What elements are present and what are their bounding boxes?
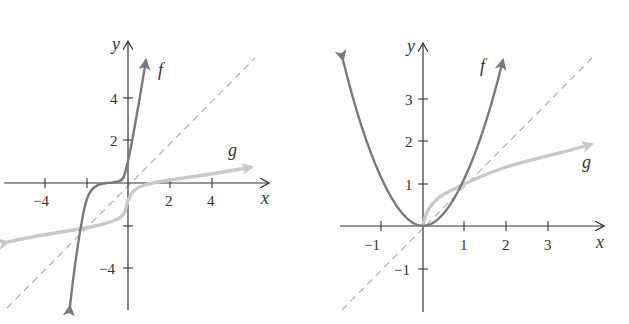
- right-xlabel-2: 2: [502, 237, 510, 253]
- left-graph: −4 2 4 4 2 −4 y x f g: [4, 34, 269, 310]
- figure: −4 2 4 4 2 −4 y x f g −1 1 2 3 3 2: [0, 0, 629, 324]
- right-xlabel-3: 3: [544, 237, 552, 253]
- right-graph: −1 1 2 3 3 2 1 −1 y x f g: [340, 36, 604, 312]
- left-ylabel-2: 2: [110, 133, 118, 149]
- right-ylabel-m1: −1: [394, 262, 410, 278]
- left-xlabel-2: 2: [165, 193, 173, 209]
- right-g-curve: [423, 144, 592, 226]
- left-ylabel-m4: −4: [99, 261, 115, 277]
- right-ylabel-1: 1: [405, 177, 413, 193]
- left-xlabel-4: 4: [207, 193, 215, 209]
- right-y-axis-label: y: [405, 36, 415, 56]
- right-ylabel-2: 2: [405, 134, 413, 150]
- right-xlabel-1: 1: [460, 237, 468, 253]
- left-f-label: f: [158, 60, 166, 80]
- right-f-label: f: [480, 56, 488, 76]
- right-ylabel-3: 3: [405, 92, 413, 108]
- left-x-axis-label: x: [260, 188, 269, 208]
- left-xlabel-m4: −4: [33, 193, 49, 209]
- left-ylabel-4: 4: [110, 91, 118, 107]
- left-g-label: g: [228, 140, 237, 160]
- right-xlabel-m1: −1: [364, 237, 380, 253]
- right-x-axis-label: x: [595, 232, 604, 252]
- right-g-label: g: [582, 152, 591, 172]
- left-y-axis-label: y: [110, 34, 120, 54]
